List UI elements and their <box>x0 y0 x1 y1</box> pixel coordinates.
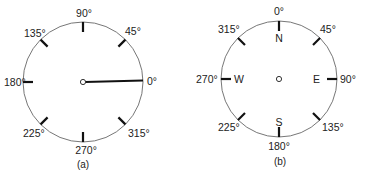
center-hub-a <box>80 79 85 84</box>
label-a-45: 45° <box>125 25 141 37</box>
caption-b: (b) <box>274 156 286 167</box>
cardinal-w: W <box>234 73 244 85</box>
tick-sw <box>238 113 245 120</box>
cardinal-s: S <box>275 116 282 128</box>
tick-135 <box>41 40 48 47</box>
pointer-needle <box>85 81 143 83</box>
cardinal-e: E <box>313 73 320 85</box>
cardinal-n: N <box>275 32 283 44</box>
label-b-270: 270° <box>196 73 218 85</box>
label-a-180: 180° <box>4 76 26 88</box>
label-b-45: 45° <box>320 23 336 35</box>
label-b-180: 180° <box>268 140 290 152</box>
center-hub-b <box>276 76 281 81</box>
label-a-0: 0° <box>147 75 157 87</box>
tick-ne <box>313 38 320 45</box>
angle-conventions-figure: 90° 45° 135° 180° 0° 225° 315° 270° (a) … <box>0 0 365 178</box>
label-a-315: 315° <box>128 127 150 139</box>
label-a-135: 135° <box>24 27 46 39</box>
label-b-315: 315° <box>218 23 240 35</box>
label-b-135: 135° <box>322 121 344 133</box>
tick-nw <box>238 38 245 45</box>
caption-a: (a) <box>77 159 89 170</box>
diagram-a: 90° 45° 135° 180° 0° 225° 315° 270° (a) <box>4 7 157 170</box>
label-b-90: 90° <box>340 73 356 85</box>
label-a-90: 90° <box>76 7 92 19</box>
label-a-225: 225° <box>23 127 45 139</box>
label-a-270: 270° <box>75 144 97 156</box>
tick-45 <box>118 40 125 47</box>
tick-225 <box>41 117 48 124</box>
tick-315 <box>118 117 125 124</box>
label-b-225: 225° <box>218 121 240 133</box>
diagram-b: N E S W 0° 45° 90° 135° 180° 225° 270° 3… <box>196 5 356 167</box>
tick-se <box>313 113 320 120</box>
label-b-0: 0° <box>274 5 284 17</box>
